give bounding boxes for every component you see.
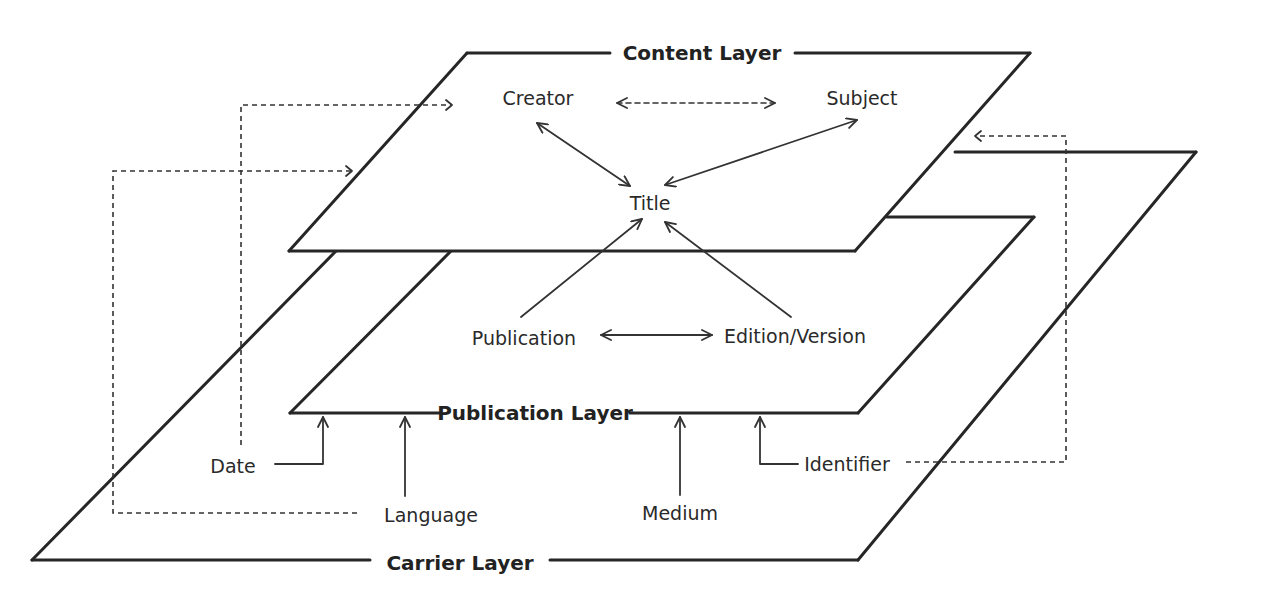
node-publication: Publication xyxy=(472,327,576,349)
node-date: Date xyxy=(210,455,255,477)
layered-metadata-diagram: Carrier Layer Publication Layer Content … xyxy=(0,0,1262,605)
node-identifier: Identifier xyxy=(804,453,890,475)
content-layer: Content Layer xyxy=(289,41,1030,251)
node-subject: Subject xyxy=(826,87,897,109)
node-medium: Medium xyxy=(642,502,718,524)
identifier-arrow xyxy=(760,417,798,464)
content-layer-title: Content Layer xyxy=(623,41,782,65)
carrier-layer-title: Carrier Layer xyxy=(386,551,533,575)
publication-layer-title: Publication Layer xyxy=(437,401,633,425)
node-language: Language xyxy=(384,504,478,526)
node-creator: Creator xyxy=(503,87,574,109)
date-arrow xyxy=(275,417,323,464)
identifier-content-dashed-link xyxy=(906,136,1066,462)
node-title: Title xyxy=(629,192,671,214)
node-edition-version: Edition/Version xyxy=(724,325,866,347)
